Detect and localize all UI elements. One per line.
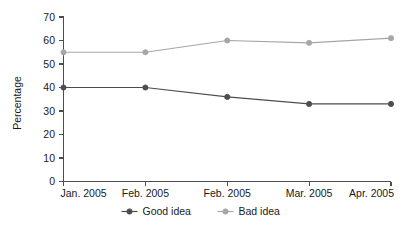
y-tick-label-10: 10 [43, 152, 55, 164]
y-axis-tick-labels: 010203040506070 [43, 11, 55, 188]
y-tick-label-30: 30 [43, 105, 55, 117]
x-tick-label-3: Mar. 2005 [286, 187, 333, 199]
data-point [143, 50, 148, 55]
x-tick-label-0: Jan. 2005 [61, 187, 107, 199]
x-tick-label-1: Feb. 2005 [122, 187, 169, 199]
data-point [61, 85, 66, 90]
y-tick-label-60: 60 [43, 34, 55, 46]
data-point [61, 50, 66, 55]
line-chart: Percentage 010203040506070 Jan. 2005Feb.… [0, 0, 407, 229]
data-point [225, 94, 230, 99]
series-bad-idea [61, 36, 394, 55]
y-tick-label-50: 50 [43, 58, 55, 70]
legend-swatch-marker [223, 209, 228, 214]
x-axis-tick-labels: Jan. 2005Feb. 2005Feb. 2005Mar. 2005Apr.… [61, 187, 395, 199]
data-point [143, 85, 148, 90]
legend-label: Good idea [143, 205, 192, 217]
y-tick-label-20: 20 [43, 128, 55, 140]
y-axis-title: Percentage [11, 76, 23, 130]
y-tick-label-40: 40 [43, 81, 55, 93]
data-point [388, 101, 393, 106]
series-good-idea [61, 85, 394, 107]
data-point [388, 36, 393, 41]
data-point [307, 40, 312, 45]
chart-canvas: Percentage 010203040506070 Jan. 2005Feb.… [0, 0, 407, 229]
y-tick-label-70: 70 [43, 11, 55, 23]
data-point [307, 101, 312, 106]
chart-legend: Good ideaBad idea [122, 205, 281, 217]
legend-swatch-marker [127, 209, 132, 214]
y-axis-ticks [59, 17, 64, 182]
legend-item-bad-idea[interactable]: Bad idea [218, 205, 281, 217]
data-point [225, 38, 230, 43]
legend-label: Bad idea [239, 205, 281, 217]
x-axis-ticks [64, 182, 392, 187]
x-tick-label-2: Feb. 2005 [204, 187, 251, 199]
y-tick-label-0: 0 [49, 175, 55, 187]
legend-item-good-idea[interactable]: Good idea [122, 205, 192, 217]
series-layer [61, 36, 394, 107]
x-tick-label-4: Apr. 2005 [349, 187, 394, 199]
